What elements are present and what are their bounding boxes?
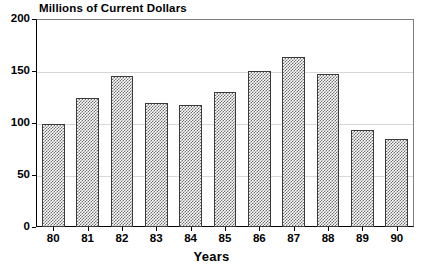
x-tick-mark: [397, 227, 398, 231]
bar-chart: Millions of Current Dollars 050100150200…: [0, 0, 423, 269]
x-axis-title: Years: [0, 249, 423, 264]
bar: [111, 76, 134, 227]
x-tick-mark: [328, 227, 329, 231]
x-tick-mark: [259, 227, 260, 231]
x-tick-mark: [156, 227, 157, 231]
y-tick-label: 200: [0, 12, 30, 24]
y-tick-label: 150: [0, 64, 30, 76]
chart-title: Millions of Current Dollars: [39, 2, 187, 14]
x-tick-mark: [122, 227, 123, 231]
y-tick-label: 50: [0, 168, 30, 180]
x-tick-mark: [53, 227, 54, 231]
x-tick-mark: [88, 227, 89, 231]
x-tick-mark: [191, 227, 192, 231]
x-tick-mark: [362, 227, 363, 231]
bars-layer: [36, 19, 414, 227]
x-axis: 8081828384858687888990: [36, 232, 414, 248]
bar: [179, 105, 202, 227]
x-tick-mark: [225, 227, 226, 231]
bar: [42, 124, 65, 227]
x-axis-ticks: [36, 227, 414, 231]
bar: [248, 71, 271, 227]
y-tick-label: 0: [0, 220, 30, 232]
bar: [214, 92, 237, 227]
bar: [145, 103, 168, 227]
bar: [317, 74, 340, 227]
bar: [282, 57, 305, 227]
y-tick-label: 100: [0, 116, 30, 128]
bar: [385, 139, 408, 227]
y-axis: 050100150200: [0, 19, 36, 227]
x-tick-mark: [294, 227, 295, 231]
bar: [351, 130, 374, 227]
bar: [76, 98, 99, 227]
x-tick-label: 90: [377, 232, 417, 244]
